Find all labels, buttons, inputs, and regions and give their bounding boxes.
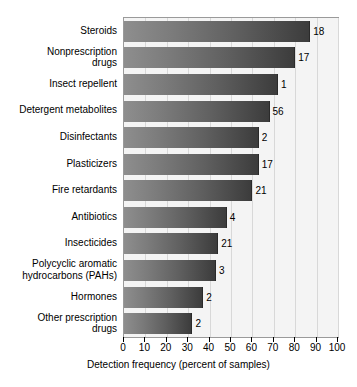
bar-value-label: 17 <box>298 47 309 68</box>
x-axis-title: Detection frequency (percent of samples) <box>0 359 357 370</box>
axis-tick-label: 80 <box>289 342 300 354</box>
bar <box>124 313 192 334</box>
bar-value-label: 4 <box>230 207 236 228</box>
axis-tick-label: 0 <box>120 342 126 354</box>
axis-tick-label: 100 <box>329 342 346 354</box>
axis-tick-label: 40 <box>203 342 214 354</box>
axis-tick-label: 90 <box>310 342 321 354</box>
axis-tick-label: 30 <box>182 342 193 354</box>
category-label: Polycyclic aromatic hydrocarbons (PAHs) <box>0 258 117 280</box>
bar-value-label: 3 <box>219 260 225 281</box>
bar <box>124 154 259 175</box>
category-label: Nonprescription drugs <box>0 46 117 68</box>
bar-chart: SteroidsNonprescription drugsInsect repe… <box>0 0 357 387</box>
category-label: Detergent metabolites <box>0 104 117 115</box>
category-label: Other prescription drugs <box>0 312 117 334</box>
bar-value-label: 56 <box>273 101 284 122</box>
bar <box>124 74 278 95</box>
bar-value-label: 21 <box>255 180 266 201</box>
bar-value-label: 17 <box>262 154 273 175</box>
category-label: Insect repellent <box>0 78 117 89</box>
gridline <box>317 18 318 337</box>
bar <box>124 21 310 42</box>
axis-tick-label: 10 <box>139 342 150 354</box>
category-label: Insecticides <box>0 237 117 248</box>
bar <box>124 287 203 308</box>
bar-value-label: 18 <box>313 21 324 42</box>
category-label: Plasticizers <box>0 158 117 169</box>
category-label: Steroids <box>0 25 117 36</box>
bar <box>124 233 218 254</box>
axis-tick-label: 60 <box>246 342 257 354</box>
category-label: Hormones <box>0 291 117 302</box>
axis-tick-label: 50 <box>224 342 235 354</box>
category-axis-labels: SteroidsNonprescription drugsInsect repe… <box>0 17 120 336</box>
bar-value-label: 2 <box>262 127 268 148</box>
bar-value-label: 2 <box>206 287 212 308</box>
category-label: Fire retardants <box>0 184 117 195</box>
bar-value-label: 1 <box>281 74 287 95</box>
bar <box>124 180 252 201</box>
bar <box>124 47 295 68</box>
bar <box>124 207 227 228</box>
category-label: Disinfectants <box>0 131 117 142</box>
bar-value-label: 21 <box>221 233 232 254</box>
bar-value-label: 2 <box>195 313 201 334</box>
gridline <box>295 18 296 337</box>
plot-area: 181715621721421322 <box>123 17 339 338</box>
bar <box>124 127 259 148</box>
category-label: Antibiotics <box>0 211 117 222</box>
gridline <box>338 18 339 337</box>
axis-tick-label: 20 <box>160 342 171 354</box>
axis-tick-label: 70 <box>267 342 278 354</box>
bar <box>124 101 270 122</box>
bar <box>124 260 216 281</box>
